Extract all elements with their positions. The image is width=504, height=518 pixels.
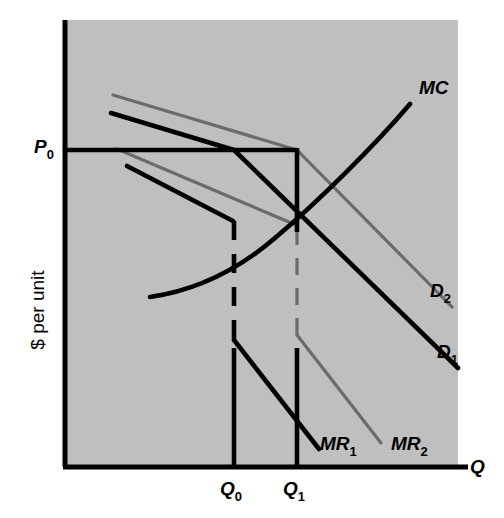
q1-tick-label-main: Q <box>283 478 298 499</box>
q1-tick-label: Q1 <box>283 478 305 504</box>
curve-label-mc: MC <box>419 77 449 98</box>
curve-label-mc-main: MC <box>419 77 449 98</box>
y-axis-label: $ per unit <box>27 270 48 350</box>
curve-label-d2-main: D <box>430 280 444 301</box>
curve-label-mr1-sub: 1 <box>350 444 357 459</box>
q0-tick-label-main: Q <box>220 478 235 499</box>
curve-label-d1-main: D <box>437 341 451 362</box>
q0-tick-label: Q0 <box>220 478 242 504</box>
q0-tick-label-sub: 0 <box>235 489 242 504</box>
curve-label-d1-sub: 1 <box>451 352 458 367</box>
plot-background <box>63 20 458 467</box>
curve-label-mr2-main: MR <box>391 433 421 454</box>
economics-diagram-figure: $ per unit Q P0 Q0 Q1 MC D2 D1 MR1 MR2 <box>0 0 504 518</box>
curve-label-mr1-main: MR <box>320 433 350 454</box>
p0-tick-label-main: P <box>34 136 47 157</box>
curve-label-d2-sub: 2 <box>444 291 451 306</box>
q1-tick-label-sub: 1 <box>298 489 305 504</box>
curve-label-mr2-sub: 2 <box>421 444 428 459</box>
p0-tick-label-sub: 0 <box>47 147 54 162</box>
x-axis-label: Q <box>470 456 485 477</box>
p0-tick-label: P0 <box>34 136 54 162</box>
diagram-canvas: $ per unit Q P0 Q0 Q1 MC D2 D1 MR1 MR2 <box>0 0 504 518</box>
